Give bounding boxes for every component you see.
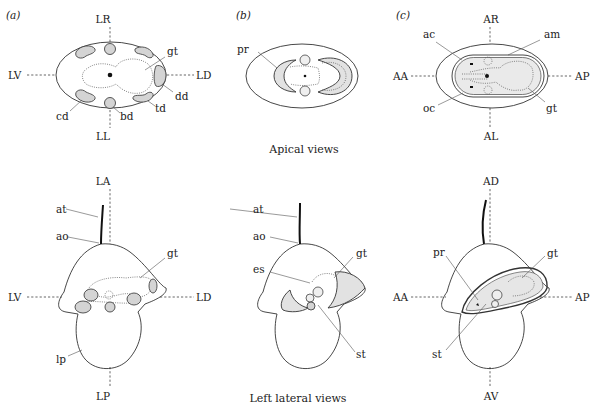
label-gt-c: gt bbox=[546, 102, 558, 114]
axis-label-ld: LD bbox=[196, 69, 211, 81]
label-oc: oc bbox=[423, 102, 435, 114]
caption-lateral-views: Left lateral views bbox=[250, 392, 347, 405]
caption-apical-views: Apical views bbox=[268, 143, 339, 156]
label-ao-b: ao bbox=[253, 230, 266, 242]
label-lp: lp bbox=[56, 353, 66, 365]
label-st-c: st bbox=[432, 348, 442, 360]
label-bd: bd bbox=[120, 110, 134, 122]
panel-a-apical: (a) LR LL LV LD gt dd td bd cd bbox=[6, 9, 211, 142]
axis-label-lv-lat: LV bbox=[8, 291, 22, 303]
axis-label-al: AL bbox=[483, 130, 499, 142]
panel-b-apical: (b) pr Apical views bbox=[236, 9, 358, 156]
label-gt: gt bbox=[167, 45, 179, 57]
figure-canvas: (a) LR LL LV LD gt dd td bd cd (b) bbox=[0, 0, 599, 414]
panel-a-label: (a) bbox=[6, 9, 20, 21]
label-gt-lat: gt bbox=[167, 247, 179, 259]
panel-a-lateral: LA LP LV LD at ao gt lp bbox=[8, 175, 211, 402]
axis-label-ll: LL bbox=[96, 130, 110, 142]
label-ac: ac bbox=[423, 28, 435, 40]
nucleus-dot bbox=[108, 73, 113, 78]
axis-label-lr: LR bbox=[96, 13, 112, 25]
apical-tuft bbox=[101, 205, 103, 244]
label-at-b: at bbox=[253, 203, 264, 215]
label-am: am bbox=[544, 28, 560, 40]
axis-label-ad: AD bbox=[482, 175, 499, 187]
label-cd: cd bbox=[56, 110, 69, 122]
label-gt-c-lat: gt bbox=[547, 247, 559, 259]
label-st-b: st bbox=[356, 348, 366, 360]
label-td: td bbox=[155, 102, 166, 114]
axis-label-ar: AR bbox=[482, 13, 500, 25]
axis-label-aa: AA bbox=[392, 70, 409, 82]
axis-label-aa-lat: AA bbox=[392, 291, 409, 303]
panel-c-label: (c) bbox=[396, 9, 410, 21]
label-at: at bbox=[56, 203, 67, 215]
axis-label-ld-lat: LD bbox=[196, 291, 211, 303]
label-pr: pr bbox=[237, 43, 250, 55]
panel-b-label: (b) bbox=[236, 9, 251, 21]
panel-b-lateral: at ao es gt st Left lateral views bbox=[230, 203, 368, 405]
axis-label-ap-lat: AP bbox=[574, 291, 590, 303]
label-gt-b: gt bbox=[356, 247, 368, 259]
panel-c-lateral: AD AV AA AP pr gt st bbox=[392, 175, 590, 402]
axis-label-lp: LP bbox=[96, 390, 110, 402]
label-dd: dd bbox=[175, 90, 189, 102]
label-es: es bbox=[253, 263, 265, 275]
axis-label-lv: LV bbox=[8, 69, 22, 81]
axis-label-la: LA bbox=[96, 175, 111, 187]
label-pr-c: pr bbox=[433, 246, 446, 258]
axis-label-av: AV bbox=[483, 390, 499, 402]
panel-c-apical: (c) AR AL AA AP ac am oc gt bbox=[392, 9, 590, 142]
apical-tuft bbox=[483, 200, 486, 244]
label-ao: ao bbox=[56, 230, 69, 242]
axis-label-ap: AP bbox=[574, 70, 590, 82]
